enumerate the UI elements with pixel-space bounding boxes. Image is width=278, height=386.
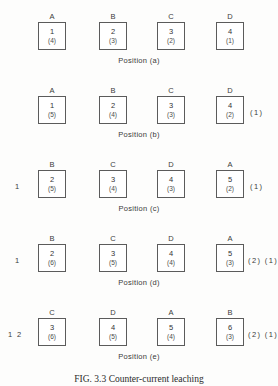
- stage-b-vessel-3-top: 3: [169, 102, 173, 110]
- stage-c-vessel-2: C 3 (4): [97, 160, 129, 198]
- stage-e-vessel-1-box: 3 (6): [38, 318, 66, 346]
- stage-c-vessel-4-box: 5 (2): [216, 170, 244, 198]
- stage-a-vessel-4-top: 4: [228, 28, 232, 36]
- stage-c-vessel-3-label: D: [155, 160, 187, 170]
- stage-d-vessel-1-top: 2: [50, 250, 54, 258]
- stage-e-vessel-4-label: B: [214, 308, 246, 318]
- stage-e-vessel-4-top: 6: [228, 324, 232, 332]
- stage-e-vessel-4-box: 6 (3): [216, 318, 244, 346]
- stage-e-feed-left: 1 2: [8, 330, 23, 339]
- stage-row-b: A 1 (5) B 2 (4) C 3 (3): [0, 86, 278, 130]
- stage-a-vessel-3-top: 3: [169, 28, 173, 36]
- stage-e-vessel-1-top: 3: [50, 324, 54, 332]
- stage-c-vessel-4-bottom: (2): [226, 186, 234, 193]
- counter-current-leaching-figure: A 1 (4) B 2 (3) C 3 (2): [0, 0, 278, 386]
- stage-a-vessel-2-box: 2 (3): [99, 22, 127, 50]
- stage-a-vessel-4-label: D: [214, 12, 246, 22]
- stage-c-vessel-1-box: 2 (5): [38, 170, 66, 198]
- stage-c-caption: Position (c): [0, 204, 278, 213]
- stage-a-vessel-1: A 1 (4): [36, 12, 68, 50]
- stage-d-vessel-3-top: 4: [169, 250, 173, 258]
- stage-e-vessel-3-bottom: (4): [167, 334, 175, 341]
- stage-d-vessel-4-label: A: [214, 234, 246, 244]
- stage-a-vessel-1-label: A: [36, 12, 68, 22]
- stage-a-vessel-3-box: 3 (2): [157, 22, 185, 50]
- stage-a-caption: Position (a): [0, 56, 278, 65]
- stage-b-vessel-1-label: A: [36, 86, 68, 96]
- stage-e-vessel-2-bottom: (5): [109, 334, 117, 341]
- stage-e-vessel-4-bottom: (3): [226, 334, 234, 341]
- stage-e-vessel-3-label: A: [155, 308, 187, 318]
- stage-d-vessel-1-label: B: [36, 234, 68, 244]
- stage-c-vessel-1-top: 2: [50, 176, 54, 184]
- figure-caption: FIG. 3.3 Counter-current leaching: [0, 374, 278, 384]
- stage-b-vessel-3-box: 3 (3): [157, 96, 185, 124]
- stage-d-caption: Position (d): [0, 278, 278, 287]
- stage-c-feed-left: 1: [15, 182, 21, 191]
- stage-c-vessel-2-box: 3 (4): [99, 170, 127, 198]
- stage-d-feed-left: 1: [15, 256, 21, 265]
- stage-c-vessel-4-label: A: [214, 160, 246, 170]
- stage-d-vessel-2-box: 3 (5): [99, 244, 127, 272]
- stage-e-caption: Position (e): [0, 352, 278, 361]
- stage-a-vessel-4-box: 4 (1): [216, 22, 244, 50]
- stage-a-vessel-3: C 3 (2): [155, 12, 187, 50]
- stage-e-vessel-1: C 3 (6): [36, 308, 68, 346]
- stage-e-vessels: 1 2 C 3 (6) D 4 (5) A 5 (4): [0, 308, 278, 352]
- stage-d-vessel-1: B 2 (6): [36, 234, 68, 272]
- stage-d-vessel-3-box: 4 (4): [157, 244, 185, 272]
- stage-b-vessel-3-label: C: [155, 86, 187, 96]
- stage-a-vessel-1-bottom: (4): [48, 38, 56, 45]
- stage-d-feed-right: (2) (1): [248, 256, 278, 265]
- stage-c-vessel-3-bottom: (3): [167, 186, 175, 193]
- stage-a-vessel-2: B 2 (3): [97, 12, 129, 50]
- stage-b-vessel-4: D 4 (2): [214, 86, 246, 124]
- stage-e-vessel-2-label: D: [97, 308, 129, 318]
- stage-c-vessel-3-box: 4 (3): [157, 170, 185, 198]
- stage-e-feed-right: (2) (1): [248, 330, 278, 339]
- stage-e-vessel-1-label: C: [36, 308, 68, 318]
- stage-b-vessel-2-top: 2: [111, 102, 115, 110]
- stage-d-vessel-2: C 3 (5): [97, 234, 129, 272]
- stage-e-vessel-2: D 4 (5): [97, 308, 129, 346]
- figure-caption-text: Counter-current leaching: [109, 374, 204, 384]
- stage-c-feed-right: (1): [250, 182, 263, 191]
- stage-c-vessel-4-top: 5: [228, 176, 232, 184]
- stage-b-vessel-3: C 3 (3): [155, 86, 187, 124]
- stage-d-vessel-4-top: 5: [228, 250, 232, 258]
- stage-b-feed-right: (1): [250, 108, 263, 117]
- stage-c-vessel-3: D 4 (3): [155, 160, 187, 198]
- stage-a-vessel-2-label: B: [97, 12, 129, 22]
- stage-d-vessel-4: A 5 (3): [214, 234, 246, 272]
- stage-c-vessel-2-top: 3: [111, 176, 115, 184]
- stage-e-vessel-3-top: 5: [169, 324, 173, 332]
- stage-b-vessel-1: A 1 (5): [36, 86, 68, 124]
- stage-b-vessel-4-box: 4 (2): [216, 96, 244, 124]
- stage-b-vessel-2-bottom: (4): [109, 112, 117, 119]
- stage-b-vessel-4-top: 4: [228, 102, 232, 110]
- stage-row-c: 1 B 2 (5) C 3 (4) D 4 (3): [0, 160, 278, 204]
- stage-row-e: 1 2 C 3 (6) D 4 (5) A 5 (4): [0, 308, 278, 352]
- stage-a-vessel-1-box: 1 (4): [38, 22, 66, 50]
- stage-b-vessel-1-top: 1: [50, 102, 54, 110]
- stage-e-vessel-1-bottom: (6): [48, 334, 56, 341]
- stage-a-vessel-4: D 4 (1): [214, 12, 246, 50]
- stage-e-vessel-3: A 5 (4): [155, 308, 187, 346]
- stage-d-vessel-3-bottom: (4): [167, 260, 175, 267]
- stage-b-vessel-1-box: 1 (5): [38, 96, 66, 124]
- stage-b-vessel-2: B 2 (4): [97, 86, 129, 124]
- stage-a-vessel-1-top: 1: [50, 28, 54, 36]
- stage-e-vessel-3-box: 5 (4): [157, 318, 185, 346]
- stage-a-vessel-3-label: C: [155, 12, 187, 22]
- stage-c-vessel-4: A 5 (2): [214, 160, 246, 198]
- stage-b-vessels: A 1 (5) B 2 (4) C 3 (3): [0, 86, 278, 130]
- stage-e-vessel-2-top: 4: [111, 324, 115, 332]
- stage-d-vessel-4-box: 5 (3): [216, 244, 244, 272]
- stage-d-vessel-2-bottom: (5): [109, 260, 117, 267]
- stage-b-vessel-2-box: 2 (4): [99, 96, 127, 124]
- figure-caption-label: FIG. 3.3: [74, 374, 108, 384]
- stage-row-a: A 1 (4) B 2 (3) C 3 (2): [0, 12, 278, 56]
- stage-d-vessel-1-bottom: (6): [48, 260, 56, 267]
- stage-c-vessels: 1 B 2 (5) C 3 (4) D 4 (3): [0, 160, 278, 204]
- stage-a-vessel-2-top: 2: [111, 28, 115, 36]
